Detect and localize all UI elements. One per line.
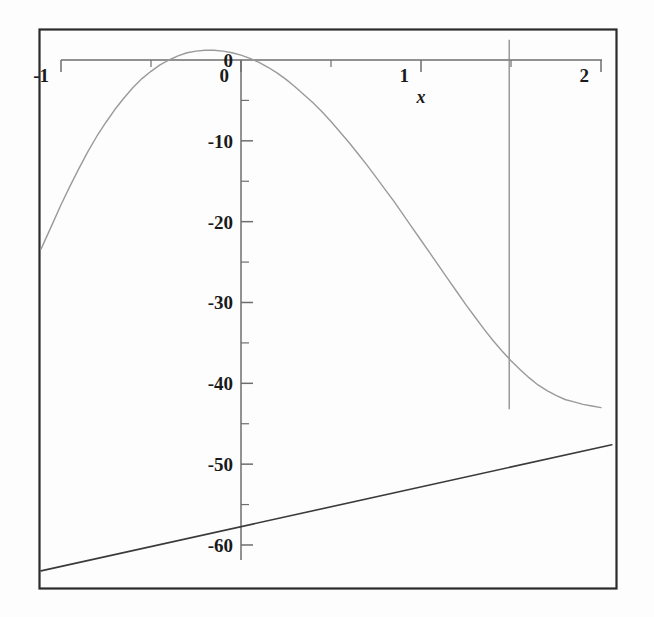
y-tick-label: -60 xyxy=(208,535,233,556)
x-tick-label: -1 xyxy=(33,65,49,86)
chart-canvas: -1012 x 0-10-20-30-40-50-60 xyxy=(0,0,654,617)
y-tick-label: -50 xyxy=(208,454,233,475)
x-tick-label: 1 xyxy=(400,65,410,86)
figure-background xyxy=(0,0,654,617)
plot-figure: -1012 x 0-10-20-30-40-50-60 xyxy=(0,0,654,617)
y-tick-label: -30 xyxy=(208,292,233,313)
x-tick-label: 2 xyxy=(580,65,590,86)
y-tick-label: -10 xyxy=(208,131,233,152)
y-tick-label: -40 xyxy=(208,373,233,394)
y-tick-label: -20 xyxy=(208,212,233,233)
x-axis-label: x xyxy=(416,87,426,107)
